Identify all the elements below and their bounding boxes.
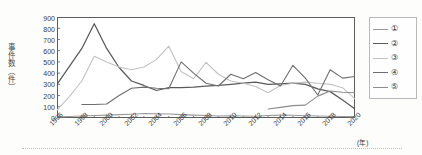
legend-label-4: ④ bbox=[391, 69, 398, 77]
y-axis-ticks: 900 800 700 600 500 400 300 200 100 0 bbox=[27, 0, 55, 155]
legend-item[interactable]: ③ bbox=[373, 51, 413, 66]
y-tick-600: 600 bbox=[29, 48, 55, 55]
x-axis-unit: (年) bbox=[357, 137, 368, 147]
legend-label-5: ⑤ bbox=[391, 83, 398, 91]
y-tick-900: 900 bbox=[29, 15, 55, 22]
series-canvas bbox=[57, 17, 355, 118]
y-tick-100: 100 bbox=[29, 104, 55, 111]
y-tick-800: 800 bbox=[29, 26, 55, 33]
y-tick-300: 300 bbox=[29, 81, 55, 88]
y-tick-500: 500 bbox=[29, 59, 55, 66]
y-tick-200: 200 bbox=[29, 93, 55, 100]
y-tick-400: 400 bbox=[29, 70, 55, 77]
legend-line-3 bbox=[373, 58, 388, 59]
legend-label-2: ② bbox=[391, 40, 398, 48]
legend-line-2 bbox=[373, 43, 388, 44]
footer-divider bbox=[22, 148, 402, 149]
legend-item[interactable]: ① bbox=[373, 22, 413, 37]
legend-line-4 bbox=[373, 72, 388, 73]
chart-legend: ① ② ③ ④ ⑤ bbox=[369, 17, 417, 99]
legend-line-5 bbox=[373, 87, 388, 88]
y-axis-label: 事件数（件） bbox=[3, 24, 17, 110]
legend-item[interactable]: ⑤ bbox=[373, 80, 413, 95]
legend-item[interactable]: ② bbox=[373, 37, 413, 52]
legend-label-1: ① bbox=[391, 25, 398, 33]
line-chart-figure: 事件数（件） 900 800 700 600 500 400 300 200 1… bbox=[0, 0, 422, 155]
legend-item[interactable]: ④ bbox=[373, 66, 413, 81]
legend-line-1 bbox=[373, 29, 388, 30]
legend-label-3: ③ bbox=[391, 54, 398, 62]
y-tick-700: 700 bbox=[29, 37, 55, 44]
plot-area bbox=[57, 17, 355, 118]
